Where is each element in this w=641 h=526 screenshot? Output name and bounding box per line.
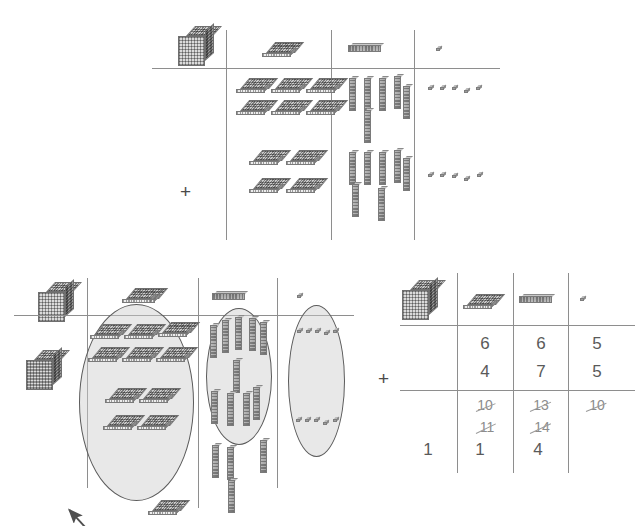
plus-sign-table: + — [378, 369, 389, 388]
answer-thousands: 1 — [413, 441, 443, 458]
top-diagram: + — [0, 0, 641, 255]
cell-addend-ones: 5 — [582, 363, 612, 380]
new-rod-block — [228, 480, 235, 513]
rod-block-icon — [348, 45, 381, 52]
plus-sign-top: + — [180, 182, 191, 201]
worksheet-canvas: + — [0, 0, 641, 526]
table-header-rule — [400, 325, 635, 326]
cell-augend-ones: 5 — [582, 335, 612, 352]
flat-block-icon — [463, 294, 497, 312]
unit-block-icon — [580, 296, 585, 301]
column-divider-thousands — [226, 30, 227, 240]
bottom-left-diagram — [0, 265, 370, 526]
cube-block-icon — [38, 282, 80, 328]
unit-block-icon — [297, 293, 302, 298]
cell-addend-tens: 7 — [526, 363, 556, 380]
flat-block-icon — [262, 42, 296, 60]
rod-block-icon — [212, 293, 245, 300]
column-divider-tens — [414, 30, 415, 240]
table-divider-thousands — [457, 273, 458, 473]
column-divider-hundreds — [331, 30, 332, 240]
cube-block-icon — [178, 26, 220, 72]
cell-augend-tens: 6 — [526, 335, 556, 352]
header-rule — [152, 68, 500, 69]
table-divider-tens — [568, 273, 569, 473]
answer-tens: 4 — [523, 441, 553, 458]
cube-block-icon — [402, 280, 444, 326]
new-cube-block — [26, 350, 68, 396]
column-divider-tens — [277, 278, 278, 488]
table-divider-hundreds — [513, 273, 514, 473]
answer-hundreds: 1 — [465, 441, 495, 458]
unit-block-icon — [436, 46, 441, 51]
rod-block-icon — [519, 296, 552, 303]
column-divider-hundreds — [198, 278, 199, 508]
cell-addend-hundreds: 4 — [470, 363, 500, 380]
new-flat-block — [148, 500, 182, 518]
cell-augend-hundreds: 6 — [470, 335, 500, 352]
leftover-hundreds-block — [122, 288, 156, 306]
work1-hundreds: 10 — [470, 398, 500, 412]
place-value-table: + 6 6 5 4 7 5 10 13 10 — [390, 265, 641, 526]
table-sum-rule — [400, 390, 635, 391]
